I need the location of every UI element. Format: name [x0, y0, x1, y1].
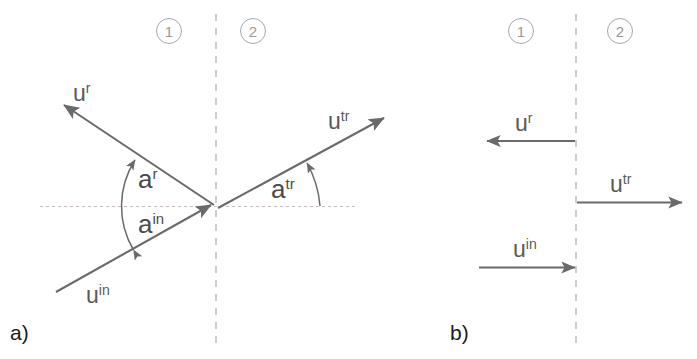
transmission-angle-superscript: tr	[285, 175, 294, 192]
reflected-wave-superscript-panel-a: r	[86, 80, 91, 96]
reflected-wave-superscript-panel-b: r	[528, 110, 533, 126]
transmission-angle-label: atr	[271, 175, 295, 202]
region-badge-1-label-panel-a: 1	[165, 24, 173, 39]
reflected-wave-label-panel-a: ur	[73, 80, 90, 105]
panel-a-caption: a)	[10, 322, 29, 343]
transmitted-wave-superscript-panel-b: tr	[623, 171, 632, 187]
transmitted-wave-superscript-panel-a: tr	[341, 108, 350, 124]
panel-b-caption: b)	[450, 322, 469, 343]
reflection-angle-superscript: r	[152, 165, 157, 182]
incident-ray-a	[56, 205, 211, 292]
incident-wave-base-panel-a: u	[86, 282, 99, 308]
incident-wave-base-panel-b: u	[513, 236, 526, 262]
transmitted-ray-a	[218, 118, 384, 208]
region-badge-2-label-panel-a: 2	[249, 24, 257, 39]
region-badge-2-label-panel-b: 2	[616, 24, 624, 39]
transmitted-wave-base-panel-a: u	[328, 108, 341, 134]
incident-wave-superscript-panel-b: in	[526, 236, 537, 252]
figure-container: 1 2 ur utr uin ar ain atr a) 1 2 ur utr …	[0, 0, 697, 359]
transmission-angle-base: a	[271, 174, 285, 204]
region-badge-1-label-panel-b: 1	[517, 24, 525, 39]
incident-wave-superscript-panel-a: in	[99, 282, 110, 298]
region-badge-1-panel-b: 1	[508, 18, 534, 44]
incident-wave-label-panel-b: uin	[513, 236, 537, 261]
transmission-angle-arc	[307, 163, 320, 206]
reflection-angle-base: a	[138, 164, 152, 194]
transmitted-wave-label-panel-a: utr	[328, 108, 349, 133]
reflected-wave-base-panel-a: u	[73, 80, 86, 106]
incident-wave-label-panel-a: uin	[86, 282, 110, 307]
region-badge-2-panel-a: 2	[240, 18, 266, 44]
reflected-wave-label-panel-b: ur	[515, 110, 532, 135]
region-badge-1-panel-a: 1	[156, 18, 182, 44]
reflected-wave-base-panel-b: u	[515, 110, 528, 136]
transmitted-wave-label-panel-b: utr	[610, 171, 631, 196]
reflection-angle-arc	[122, 160, 135, 250]
transmitted-wave-base-panel-b: u	[610, 171, 623, 197]
reflection-angle-label: ar	[138, 165, 157, 192]
incidence-angle-superscript: in	[152, 210, 164, 227]
region-badge-2-panel-b: 2	[607, 18, 633, 44]
incidence-angle-label: ain	[138, 210, 164, 237]
incidence-angle-base: a	[138, 209, 152, 239]
